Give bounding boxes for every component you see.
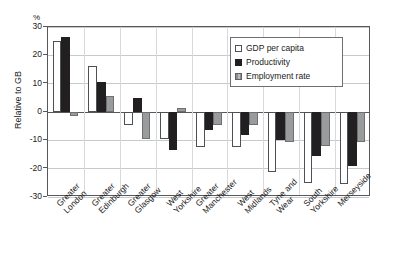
- legend-label: Employment rate: [246, 72, 310, 81]
- legend-swatch-gdp-per-capita: [235, 45, 242, 52]
- y-axis-tick-label: -20: [14, 164, 42, 172]
- legend-swatch-productivity: [235, 59, 242, 66]
- y-axis-tick-label: -10: [14, 135, 42, 143]
- bar: [53, 41, 62, 112]
- bar: [177, 108, 186, 112]
- bar: [232, 112, 241, 147]
- bar: [61, 37, 70, 112]
- legend-label: Productivity: [246, 58, 290, 67]
- bar: [169, 112, 178, 150]
- bar: [276, 112, 285, 140]
- bar: [133, 98, 142, 112]
- legend-item: Employment rate: [235, 69, 338, 83]
- bar: [124, 112, 133, 125]
- legend-item: Productivity: [235, 55, 338, 69]
- bar: [357, 112, 366, 142]
- bar: [285, 112, 294, 142]
- bar: [106, 96, 115, 112]
- bar: [97, 82, 106, 112]
- chart-container: % Relative to GB 3020100-10-20-30 Greate…: [0, 0, 416, 269]
- bar: [70, 112, 79, 116]
- bar-group: [48, 27, 84, 195]
- legend-label: GDP per capita: [246, 44, 304, 53]
- bar: [249, 112, 258, 125]
- bar: [205, 112, 214, 130]
- chart-legend: GDP per capita Productivity Employment r…: [230, 37, 343, 87]
- bar: [213, 112, 222, 125]
- y-axis-tick-label: 20: [14, 50, 42, 58]
- y-axis-tick-label: 30: [14, 22, 42, 30]
- y-axis-tick-label: 10: [14, 79, 42, 87]
- bar: [321, 112, 330, 146]
- legend-item: GDP per capita: [235, 41, 338, 55]
- bar: [312, 112, 321, 156]
- y-axis-tick-label: 0: [14, 107, 42, 115]
- bar: [241, 112, 250, 135]
- bar: [88, 66, 97, 112]
- bar: [160, 112, 169, 139]
- x-axis-labels: Greater LondonGreater EdinburghGreater G…: [0, 198, 416, 269]
- bar: [142, 112, 151, 139]
- legend-swatch-employment-rate: [235, 73, 242, 80]
- bar: [196, 112, 205, 147]
